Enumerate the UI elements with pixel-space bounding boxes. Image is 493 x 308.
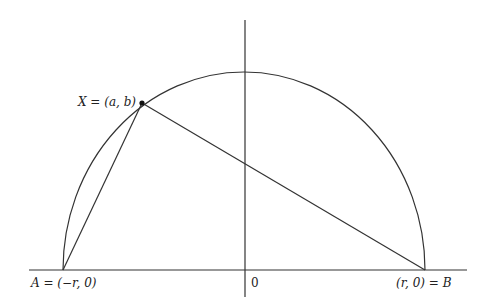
semicircle-diagram (0, 0, 493, 308)
segment-xb (142, 103, 425, 270)
label-point-x: X = (a, b) (78, 95, 136, 109)
label-point-a: A = (−r, 0) (31, 276, 96, 290)
label-origin: 0 (251, 276, 259, 290)
label-point-b: (r, 0) = B (396, 276, 452, 290)
point-x-dot (139, 100, 144, 105)
segment-ax (63, 103, 142, 270)
